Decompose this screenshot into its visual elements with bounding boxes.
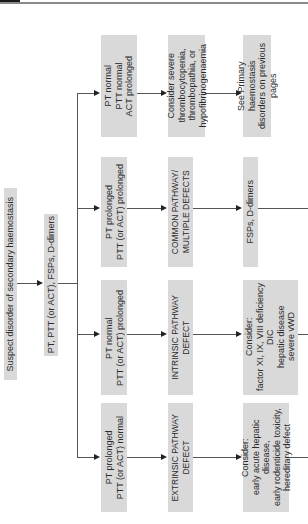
connector-c-2: [193, 334, 237, 335]
next-label-d: Consider: early acute hepatic disease, e…: [240, 403, 293, 512]
category-box-a: Consider severe thrombocytopenia, thromb…: [168, 35, 205, 137]
result-label-c: PT normal PTT (or ACT) prolonged: [104, 290, 125, 386]
connector-c-out: [298, 334, 308, 335]
next-box-a: See Primary haemostasis disorders on pre…: [243, 35, 271, 137]
result-label-b: PT prolonged PTT (or ACT) prolonged: [104, 164, 125, 260]
connector-tests-trunk: [58, 283, 78, 284]
category-label-d: EXTRINSIC PATHWAY DEFECT: [170, 414, 191, 502]
arrow-icon: [161, 205, 167, 211]
connector-trunk-row-a: [77, 93, 95, 94]
arrow-icon: [236, 205, 242, 211]
connector-d-2: [193, 457, 237, 458]
category-box-b: COMMON PATHWAY/ MULTIPLE DEFECTS: [168, 157, 193, 267]
connector-a-1: [137, 93, 162, 94]
connector-b-out: [258, 208, 308, 209]
connector-d-out: [289, 457, 308, 458]
header-rule: [0, 2, 308, 4]
arrow-icon: [37, 280, 43, 286]
connector-start-tests: [17, 283, 39, 284]
tests-box: PT, PTT (or ACT), FSPs, D-dimers: [44, 214, 58, 356]
arrow-icon: [94, 205, 100, 211]
category-label-a: Consider severe thrombocytopenia, thromb…: [166, 44, 208, 128]
start-box: Suspect disorder of secondary haemostasi…: [4, 188, 17, 380]
connector-a-2: [205, 93, 237, 94]
connector-d-1: [127, 457, 162, 458]
connector-b-2: [193, 208, 237, 209]
next-label-c: Consider: factor XI, IX, VIII deficiency…: [244, 283, 297, 391]
connector-b-1: [127, 208, 162, 209]
trunk-line: [77, 93, 78, 458]
arrow-icon: [94, 331, 100, 337]
category-box-c: INTRINSIC PATHWAY DEFECT: [168, 280, 193, 395]
result-label-d: PT prolonged PTT (or ACT) normal: [104, 416, 125, 499]
arrow-icon: [94, 90, 100, 96]
next-label-b: FSPs, D-dimers: [245, 180, 256, 244]
connector-trunk-row-c: [77, 334, 95, 335]
result-box-d: PT prolonged PTT (or ACT) normal: [101, 403, 127, 512]
arrow-icon: [161, 331, 167, 337]
result-box-c: PT normal PTT (or ACT) prolonged: [101, 280, 127, 395]
category-label-c: INTRINSIC PATHWAY DEFECT: [170, 295, 191, 380]
next-box-b: FSPs, D-dimers: [243, 157, 258, 267]
next-label-a: See Primary haemostasis disorders on pre…: [236, 35, 278, 137]
next-box-d: Consider: early acute hepatic disease, e…: [243, 403, 289, 512]
result-label-a: PT normal PTT normal ACT prolonged: [103, 56, 135, 116]
start-label: Suspect disorder of secondary haemostasi…: [5, 197, 16, 372]
category-label-b: COMMON PATHWAY/ MULTIPLE DEFECTS: [170, 170, 191, 254]
arrow-icon: [161, 454, 167, 460]
tests-label: PT, PTT (or ACT), FSPs, D-dimers: [46, 216, 57, 353]
arrow-icon: [236, 331, 242, 337]
next-box-c: Consider: factor XI, IX, VIII deficiency…: [243, 280, 298, 395]
category-box-d: EXTRINSIC PATHWAY DEFECT: [168, 403, 193, 512]
connector-trunk-row-d: [77, 457, 95, 458]
connector-trunk-row-b: [77, 208, 95, 209]
connector-c-1: [127, 334, 162, 335]
result-box-a: PT normal PTT normal ACT prolonged: [101, 35, 137, 137]
arrow-icon: [94, 454, 100, 460]
result-box-b: PT prolonged PTT (or ACT) prolonged: [101, 157, 127, 267]
